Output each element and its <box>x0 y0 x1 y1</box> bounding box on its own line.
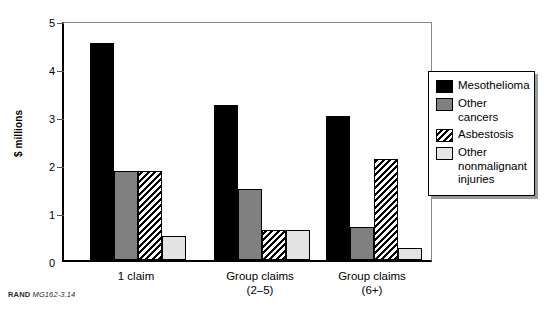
legend-label: Asbestosis <box>458 128 514 142</box>
chart-figure: $ millions 012345 1 claimGroup claims(2–… <box>0 0 545 311</box>
y-tick-mark <box>57 71 64 72</box>
legend-item: Asbestosis <box>436 128 528 142</box>
y-axis-title: $ millions <box>13 94 24 174</box>
footnote-organization: RAND <box>8 290 30 299</box>
y-tick-label: 4 <box>49 65 55 77</box>
legend-label: Mesothelioma <box>458 79 530 93</box>
bar <box>90 43 114 260</box>
y-tick-mark <box>57 23 64 24</box>
bar <box>162 236 186 260</box>
x-axis-group-label: 1 claim <box>76 269 196 283</box>
bar <box>114 171 138 260</box>
y-tick-label: 0 <box>49 257 55 269</box>
legend-item: Other nonmalignant injuries <box>436 146 528 187</box>
y-tick-label: 1 <box>49 209 55 221</box>
x-axis-label-line: Group claims <box>312 269 432 283</box>
y-tick-label: 2 <box>49 161 55 173</box>
bar <box>326 116 350 260</box>
bar <box>214 105 238 260</box>
bar <box>350 227 374 260</box>
y-tick-mark <box>57 215 64 216</box>
x-axis-group-label: Group claims(2–5) <box>200 269 320 297</box>
figure-footnote: RAND MG162-3.14 <box>8 290 75 299</box>
legend-label: Other nonmalignant injuries <box>458 146 528 187</box>
y-tick-mark <box>57 167 64 168</box>
y-tick-label: 3 <box>49 113 55 125</box>
bar <box>286 230 310 260</box>
plot-area: 012345 <box>62 22 432 262</box>
bar <box>238 189 262 260</box>
chart-legend: MesotheliomaOther cancersAsbestosisOther… <box>428 71 535 196</box>
x-axis-label-line: 1 claim <box>76 269 196 283</box>
legend-swatch-black <box>436 80 453 93</box>
legend-swatch-gray <box>436 98 453 111</box>
legend-label: Other cancers <box>458 97 528 124</box>
footnote-code: MG162-3.14 <box>33 290 76 299</box>
bar <box>262 230 286 260</box>
bar <box>138 171 162 260</box>
legend-item: Mesothelioma <box>436 79 528 93</box>
legend-swatch-light <box>436 147 453 160</box>
y-tick-label: 5 <box>49 17 55 29</box>
legend-item: Other cancers <box>436 97 528 124</box>
legend-swatch-hatch <box>436 129 453 142</box>
bar <box>374 159 398 260</box>
bar <box>398 248 422 260</box>
x-axis-group-label: Group claims(6+) <box>312 269 432 297</box>
x-axis-label-line: Group claims <box>200 269 320 283</box>
x-axis-label-line: (6+) <box>312 283 432 297</box>
y-tick-mark <box>57 119 64 120</box>
x-axis-label-line: (2–5) <box>200 283 320 297</box>
